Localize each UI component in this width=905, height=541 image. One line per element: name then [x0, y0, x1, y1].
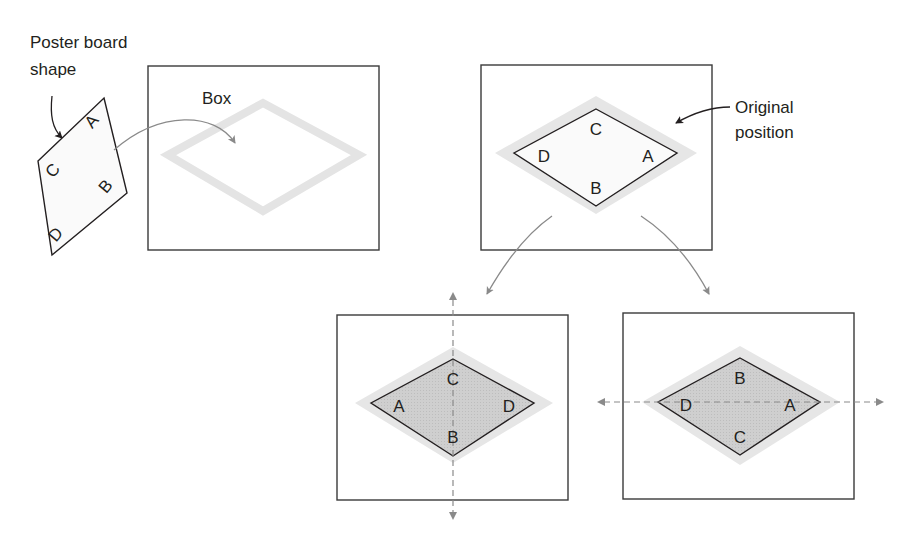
- horizontal-flip-vertex-b: B: [734, 369, 745, 388]
- vertical-flip-group: C D B A: [337, 292, 568, 520]
- horizontal-axis-arrow-left: [597, 398, 605, 406]
- original-label-line1: Original: [735, 98, 794, 117]
- poster-board-label-line1: Poster board: [30, 33, 127, 52]
- vertical-flip-vertex-a: A: [393, 397, 405, 416]
- empty-box-group: Box: [114, 66, 379, 250]
- box-frame: [148, 66, 379, 250]
- horizontal-flip-vertex-a: A: [784, 396, 796, 415]
- vertical-axis-arrow-bottom: [449, 512, 457, 520]
- original-label-line2: position: [735, 123, 794, 142]
- rhombus-symmetry-diagram: Poster board shape A B D C Box C A B D O…: [0, 0, 905, 541]
- original-vertex-a: A: [642, 147, 654, 166]
- vertical-flip-vertex-c: C: [447, 370, 459, 389]
- horizontal-flip-group: B A C D: [597, 313, 884, 499]
- original-position-group: C A B D Original position: [481, 65, 794, 294]
- horizontal-flip-vertex-d: D: [680, 396, 692, 415]
- vertical-flip-vertex-b: B: [447, 428, 458, 447]
- poster-board-pointer-arrow: [51, 96, 62, 138]
- poster-board-group: Poster board shape A B D C: [30, 33, 127, 255]
- original-vertex-b: B: [590, 179, 601, 198]
- original-vertex-c: C: [590, 120, 602, 139]
- box-label: Box: [202, 89, 232, 108]
- poster-board-label-line2: shape: [30, 60, 76, 79]
- original-vertex-d: D: [538, 147, 550, 166]
- vertical-flip-vertex-d: D: [503, 397, 515, 416]
- horizontal-axis-arrow-right: [876, 398, 884, 406]
- vertical-axis-arrow-top: [449, 292, 457, 300]
- horizontal-flip-vertex-c: C: [734, 428, 746, 447]
